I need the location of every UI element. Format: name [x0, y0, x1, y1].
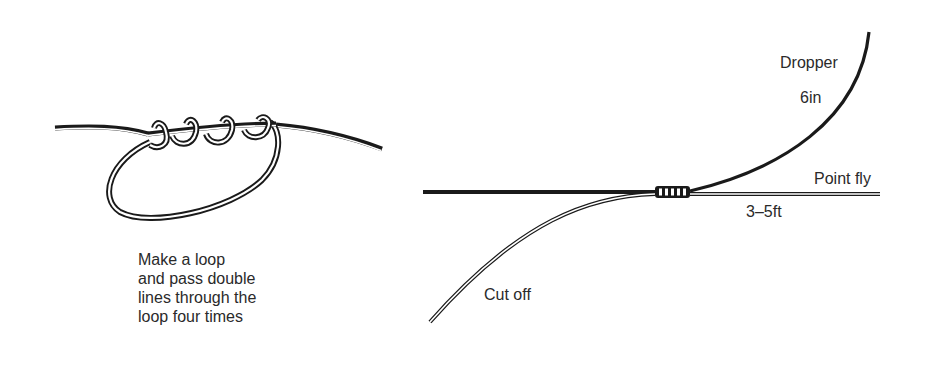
wrap-coil — [150, 117, 269, 147]
dropper-length-label: 6in — [800, 88, 821, 107]
dropper-knot-illustration — [423, 32, 880, 322]
point-fly-label: Point fly — [814, 169, 871, 188]
point-fly-length-label: 3–5ft — [746, 202, 782, 221]
caption-line: Make a loop — [138, 250, 256, 269]
caption-line: lines through the — [138, 288, 256, 307]
cut-off-label: Cut off — [484, 285, 531, 304]
cut-off-line — [430, 194, 655, 322]
loop-knot-illustration — [55, 117, 382, 218]
dropper-label: Dropper — [780, 53, 838, 72]
loop-instruction-caption: Make a loop and pass double lines throug… — [138, 250, 256, 326]
caption-line: loop four times — [138, 307, 256, 326]
knot-wraps — [655, 186, 690, 198]
caption-line: and pass double — [138, 269, 256, 288]
